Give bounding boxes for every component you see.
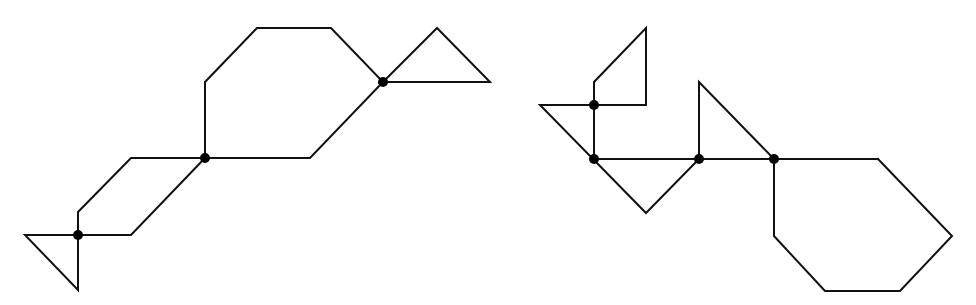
junction-dot (769, 154, 779, 164)
right-middle-triangle (699, 82, 774, 159)
diagram-canvas (0, 0, 976, 305)
left-figure (25, 28, 490, 290)
junction-dot (378, 77, 388, 87)
left-lower-left-triangle (25, 235, 78, 290)
left-hexagon (205, 28, 383, 158)
left-upper-right-triangle (383, 28, 490, 82)
right-figure (540, 28, 952, 291)
left-parallelogram (78, 158, 205, 235)
junction-dot (589, 100, 599, 110)
right-hexagon (774, 159, 952, 291)
junction-dot (589, 154, 599, 164)
junction-dot (694, 154, 704, 164)
junction-dot (200, 153, 210, 163)
junction-dot (73, 230, 83, 240)
right-top-flag-shape (540, 28, 699, 213)
